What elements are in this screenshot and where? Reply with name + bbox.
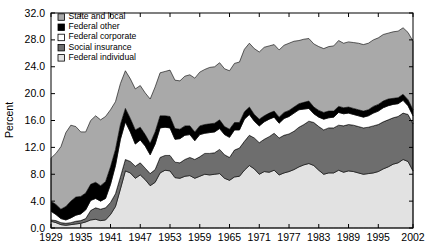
legend-item-federal-individual: Federal individual <box>58 52 136 62</box>
y-tick-label: 12.0 <box>25 141 46 153</box>
x-tick-label: 1947 <box>129 231 153 243</box>
x-tick-label: 1929 <box>39 231 63 243</box>
y-tick-label: 16.0 <box>25 114 46 126</box>
legend-swatch <box>58 44 65 51</box>
x-tick-label: 1971 <box>248 231 272 243</box>
chart-legend: State and localFederal otherFederal corp… <box>58 11 137 62</box>
legend-label: Federal individual <box>69 52 136 62</box>
x-tick-label: 1983 <box>307 231 331 243</box>
y-tick-label: 28.0 <box>25 33 46 45</box>
legend-swatch <box>58 24 65 31</box>
legend-label: Social insurance <box>69 42 132 52</box>
y-tick-label: 24.0 <box>25 60 46 72</box>
x-tick-label: 1941 <box>99 231 123 243</box>
legend-item-state-and-local: State and local <box>58 11 125 21</box>
x-tick-label: 1989 <box>337 231 361 243</box>
chart-canvas: 0.04.08.012.016.020.024.028.032.0 192919… <box>0 0 429 251</box>
y-tick-label: 32.0 <box>25 7 46 19</box>
x-tick-label: 1995 <box>367 231 391 243</box>
legend-label: State and local <box>69 11 126 21</box>
x-tick-label: 1959 <box>188 231 212 243</box>
legend-swatch <box>58 14 65 20</box>
y-tick-label: 8.0 <box>30 168 45 180</box>
x-tick-label: 1965 <box>218 231 242 243</box>
x-tick-label: 1935 <box>69 231 93 243</box>
legend-item-social-insurance: Social insurance <box>58 42 132 52</box>
y-tick-label: 4.0 <box>30 195 45 207</box>
legend-label: Federal corporate <box>69 31 137 41</box>
legend-label: Federal other <box>69 21 120 31</box>
stacked-area-chart: 0.04.08.012.016.020.024.028.032.0 192919… <box>0 0 429 251</box>
legend-swatch <box>58 55 65 62</box>
y-axis-label: Percent <box>3 102 15 138</box>
x-tick-label: 2002 <box>401 231 425 243</box>
x-tick-label: 1977 <box>277 231 301 243</box>
y-tick-label: 20.0 <box>25 87 46 99</box>
legend-item-federal-corporate: Federal corporate <box>58 31 137 41</box>
x-tick-label: 1953 <box>158 231 182 243</box>
legend-swatch <box>58 34 65 41</box>
